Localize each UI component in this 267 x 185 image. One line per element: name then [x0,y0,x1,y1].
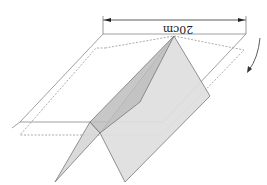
fold-flap-left [55,122,100,182]
dimension-label: 20cm [158,22,198,36]
dimension-arrow-left-icon [104,18,111,22]
outline-tail [12,122,20,128]
diagram-canvas [0,0,267,185]
rotation-arrow-icon [249,38,260,70]
dimension-arrow-right-icon [238,18,245,22]
fold-diagram: 20cm [0,0,267,185]
